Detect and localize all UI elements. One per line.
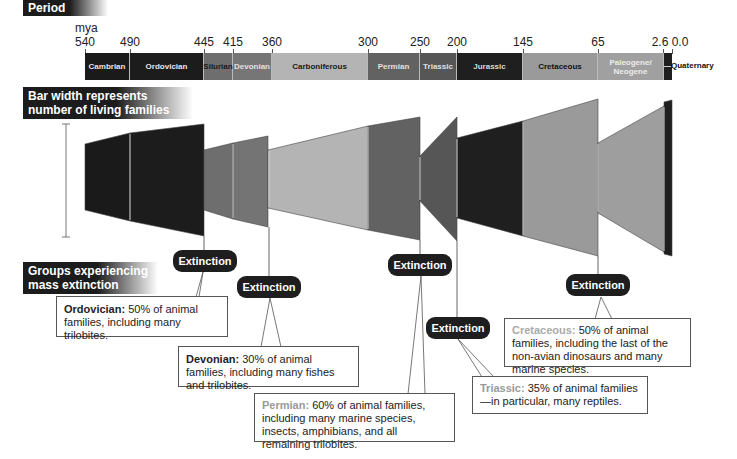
- callout-triassic: Triassic: 35% of animal families—in part…: [472, 376, 648, 414]
- bar-permian: [368, 117, 420, 240]
- bar-jurassic: [457, 121, 523, 236]
- callout-triassic-name: Triassic:: [480, 382, 525, 394]
- callout-ordovician-name: Ordovician:: [64, 303, 125, 315]
- groups-header-line1: Groups experiencing: [28, 264, 158, 278]
- callout-devonian-name: Devonian:: [186, 353, 239, 365]
- callout-devonian: Devonian: 30% of animal families, includ…: [178, 346, 359, 387]
- callout-permian: Permian: 60% of animal families, includi…: [254, 393, 455, 442]
- scale-bar: [62, 124, 70, 237]
- bar-silurian: [204, 143, 233, 219]
- bar-ordovician: [130, 124, 204, 236]
- extinction-badge-triassic: Extinction: [426, 317, 490, 339]
- groups-header: Groups experiencing mass extinction: [23, 262, 158, 294]
- extinction-badge-permian: Extinction: [388, 254, 452, 276]
- bar-triassic: [420, 117, 457, 241]
- bar-quaternary: [664, 100, 672, 256]
- extinction-badge-devonian: Extinction: [237, 276, 301, 298]
- callout-permian-name: Permian:: [262, 399, 309, 411]
- callout-cretaceous-name: Cretaceous:: [512, 324, 576, 336]
- bar-cambrian: [85, 133, 130, 221]
- extinction-badge-cretaceous: Extinction: [566, 274, 630, 296]
- bar-devonian: [233, 136, 268, 227]
- bar-carboniferous: [268, 126, 368, 230]
- callout-ordovician: Ordovician: 50% of animal families, incl…: [56, 296, 228, 337]
- callout-cretaceous: Cretaceous: 50% of animal families, incl…: [504, 318, 691, 367]
- groups-header-line2: mass extinction: [28, 278, 158, 292]
- bar-cretaceous: [523, 99, 598, 256]
- bar-paleogene-neogene: [598, 106, 664, 252]
- extinction-badge-ordovician: Extinction: [173, 250, 237, 272]
